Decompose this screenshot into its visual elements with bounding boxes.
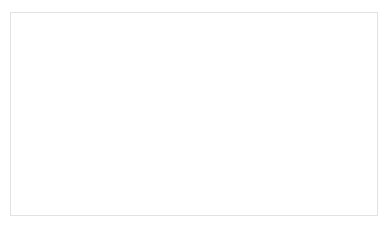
chart-plot-frame <box>10 12 378 216</box>
chart-container: 0100020003000400050006000700080002013201… <box>0 0 388 228</box>
